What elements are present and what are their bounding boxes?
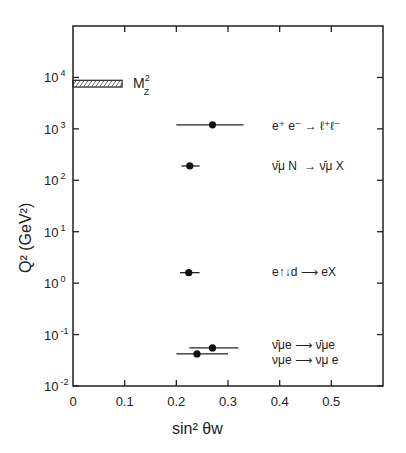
- data-point: [182, 162, 200, 169]
- x-axis-title: sin² θw: [172, 420, 223, 437]
- x-tick-label: 0.3: [219, 394, 237, 409]
- marker: [193, 350, 200, 357]
- marker: [209, 344, 216, 351]
- process-label-nu-e: νμe ⟶ νμ e: [272, 353, 339, 367]
- y-tick-label: 100: [44, 274, 65, 291]
- y-tick-label: 10-1: [44, 326, 68, 343]
- x-tick-label: 0.1: [116, 394, 134, 409]
- y-tick-label: 102: [44, 171, 65, 188]
- data-points: [176, 121, 243, 357]
- x-tick-label: 0.5: [322, 394, 340, 409]
- chart: 00.10.20.30.40.5 10410310210110010-110-2…: [0, 0, 406, 453]
- process-label-nubar-e: ν̄μe ⟶ ν̄μe: [272, 338, 335, 352]
- data-point: [176, 350, 228, 357]
- process-label-nuN: ν̆μ N → ν̆μ X: [272, 159, 344, 173]
- process-label-ee: e⁺ e⁻ → ℓ⁺ℓ⁻: [272, 119, 340, 133]
- y-tick-label: 10-2: [44, 377, 68, 394]
- x-tick-label: 0: [69, 394, 76, 409]
- mz-label: M2Z: [133, 73, 150, 97]
- data-point: [180, 269, 200, 276]
- x-tick-label: 0.4: [271, 394, 289, 409]
- y-tick-label: 101: [44, 223, 65, 240]
- process-label-ed: e↑↓d ⟶ eX: [272, 265, 336, 279]
- mz-band: [73, 80, 122, 87]
- y-axis-title: Q² (GeV²): [17, 203, 34, 273]
- y-tick-label: 104: [44, 68, 65, 85]
- marker: [209, 121, 216, 128]
- y-tick-label: 103: [44, 120, 65, 137]
- marker: [186, 162, 193, 169]
- process-label-nuN-right: → ν̆μ X: [304, 159, 344, 173]
- process-label-nuN-left: ν̆μ N: [272, 159, 297, 173]
- marker: [185, 269, 192, 276]
- data-point: [176, 121, 243, 128]
- x-tick-label: 0.2: [167, 394, 185, 409]
